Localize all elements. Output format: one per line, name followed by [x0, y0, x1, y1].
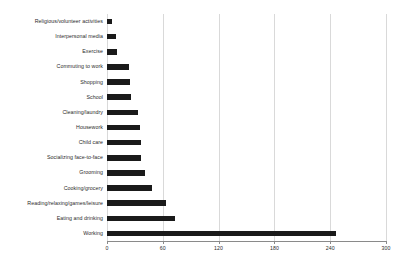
y-axis-label: Working: [83, 230, 103, 237]
bar: [107, 94, 131, 100]
bar: [107, 125, 140, 131]
x-gridline: [386, 14, 387, 241]
y-axis-label: Reading/relaxing/games/leisure: [27, 200, 103, 207]
y-axis-label: Interpersonal media: [55, 33, 103, 40]
x-axis-tick-label: 0: [106, 245, 109, 252]
bar: [107, 64, 129, 70]
y-axis-label: Housework: [76, 124, 103, 131]
x-axis-tick: [219, 241, 220, 244]
x-gridline: [330, 14, 331, 241]
y-axis-label: Exercise: [82, 48, 103, 55]
bar: [107, 185, 152, 191]
bar: [107, 170, 145, 176]
x-axis-tick-label: 300: [382, 245, 391, 252]
x-gridline: [274, 14, 275, 241]
x-axis-tick: [386, 241, 387, 244]
y-axis-label: Child care: [79, 139, 103, 146]
bar-chart: Religious/volunteer activitiesInterperso…: [0, 0, 407, 265]
bar: [107, 79, 130, 85]
bar: [107, 200, 166, 206]
x-axis-tick-label: 120: [214, 245, 223, 252]
y-axis-label: Cleaning/laundry: [62, 109, 103, 116]
plot-area: [107, 14, 386, 241]
x-axis-tick: [163, 241, 164, 244]
y-axis-label: Socializing face-to-face: [47, 154, 103, 161]
y-axis-label: Eating and drinking: [57, 215, 103, 222]
bar: [107, 49, 117, 55]
x-axis-tick: [107, 241, 108, 244]
x-axis-tick-label: 240: [326, 245, 335, 252]
bar: [107, 155, 141, 161]
bar: [107, 19, 112, 25]
bar: [107, 110, 138, 116]
y-axis-label: Cooking/grocery: [64, 185, 103, 192]
y-axis-category-labels: Religious/volunteer activitiesInterperso…: [0, 14, 103, 241]
x-axis-tick: [330, 241, 331, 244]
x-axis-line: [107, 241, 386, 242]
y-axis-label: School: [87, 94, 104, 101]
x-axis-tick: [274, 241, 275, 244]
y-axis-label: Religious/volunteer activities: [35, 18, 103, 25]
x-axis-tick-label: 60: [160, 245, 166, 252]
y-axis-label: Shopping: [80, 79, 103, 86]
x-gridline: [163, 14, 164, 241]
bar: [107, 231, 336, 237]
bar: [107, 216, 175, 222]
x-axis-tick-label: 180: [270, 245, 279, 252]
x-gridline: [219, 14, 220, 241]
bar: [107, 34, 116, 40]
bar: [107, 140, 141, 146]
y-axis-label: Grooming: [79, 169, 103, 176]
y-axis-label: Commuting to work: [57, 63, 103, 70]
